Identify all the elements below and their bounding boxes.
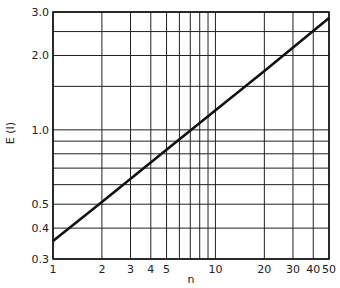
x-tick-label: 10 [208,263,222,276]
x-tick-label: 5 [163,263,170,276]
x-tick-label: 30 [286,263,300,276]
grid [53,12,329,259]
y-tick-label: 3.0 [32,6,50,19]
y-tick-label: 0.3 [32,253,50,266]
x-tick-label: 20 [257,263,271,276]
y-axis-label: E (I) [4,122,17,144]
y-tick-labels: 0.30.40.51.02.03.0 [32,6,50,266]
chart: 123451020304050 0.30.40.51.02.03.0 n E (… [0,0,340,288]
x-tick-label: 1 [50,263,57,276]
y-tick-label: 0.4 [32,222,50,235]
x-tick-label: 3 [127,263,134,276]
x-tick-label: 2 [98,263,105,276]
x-tick-label: 4 [147,263,154,276]
y-tick-label: 1.0 [32,124,50,137]
x-tick-label: 40 [306,263,320,276]
y-tick-label: 2.0 [32,49,50,62]
x-axis-label: n [188,273,195,286]
x-tick-label: 50 [322,263,336,276]
y-tick-label: 0.5 [32,198,50,211]
plot-frame [53,12,329,259]
